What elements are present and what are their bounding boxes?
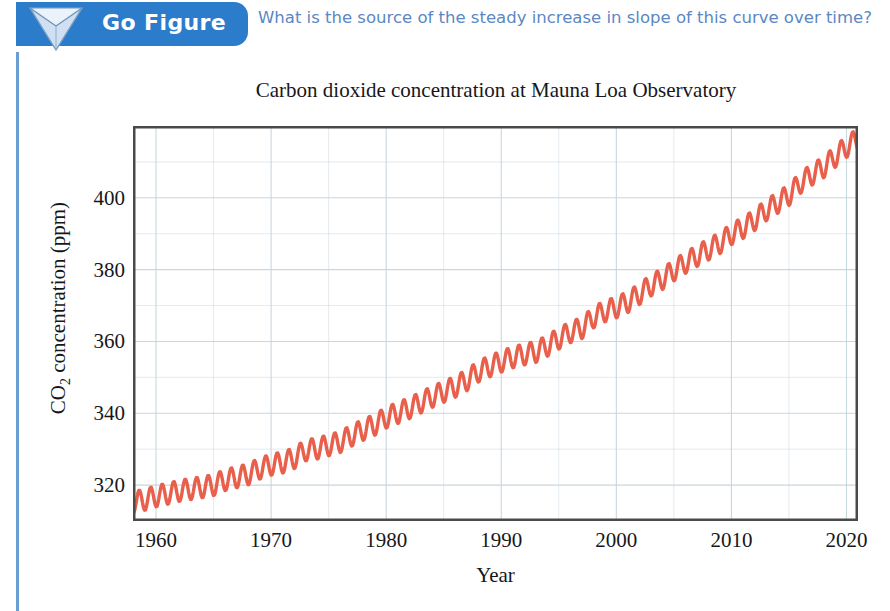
co2-line-chart xyxy=(133,126,858,521)
x-tick-label: 2010 xyxy=(686,528,776,553)
x-tick-label: 1970 xyxy=(226,528,316,553)
x-tick-label: 1960 xyxy=(111,528,201,553)
x-tick-label: 2020 xyxy=(801,528,890,553)
x-tick-label: 2000 xyxy=(571,528,661,553)
x-tick-label: 1990 xyxy=(456,528,546,553)
x-axis-label: Year xyxy=(133,563,858,588)
y-axis-label: CO2 concentration (ppm) xyxy=(46,112,74,504)
x-axis-ticks: 1960197019801990200020102020 xyxy=(133,528,858,558)
go-figure-label: Go Figure xyxy=(102,10,226,35)
plot-area xyxy=(133,126,858,521)
chart-title: Carbon dioxide concentration at Mauna Lo… xyxy=(133,78,859,103)
inverted-triangle-icon xyxy=(28,4,84,52)
go-figure-question: What is the source of the steady increas… xyxy=(258,6,886,29)
x-tick-label: 1980 xyxy=(341,528,431,553)
figure-co2-mauna-loa: Carbon dioxide concentration at Mauna Lo… xyxy=(0,58,890,611)
